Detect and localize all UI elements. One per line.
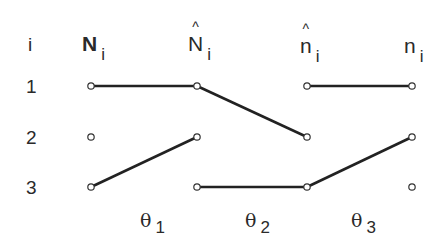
theta-symbol: θ	[245, 209, 256, 231]
col-symbol: N	[82, 32, 97, 55]
node-c2-r0	[304, 83, 310, 89]
node-c2-r2	[304, 184, 310, 190]
theta-subscript: 3	[366, 218, 375, 237]
index-header: i	[28, 35, 32, 54]
col-symbol: N	[188, 33, 203, 54]
theta-subscript: 1	[155, 218, 164, 237]
node-c1-r2	[194, 184, 200, 190]
col-subscript: i	[207, 45, 211, 64]
transition-theta-3: θ3	[351, 211, 376, 230]
transition-theta-2: θ2	[245, 211, 270, 230]
node-c3-r2	[409, 184, 415, 190]
row-label-1: 1	[26, 77, 37, 96]
node-c1-r1	[194, 134, 200, 140]
col-subscript: i	[101, 45, 105, 64]
theta-subscript: 2	[260, 218, 269, 237]
node-c3-r1	[409, 134, 415, 140]
node-c0-r2	[88, 184, 94, 190]
node-c2-r1	[304, 134, 310, 140]
theta-symbol: θ	[140, 209, 151, 231]
col-subscript: i	[420, 47, 424, 66]
edges	[91, 86, 412, 187]
node-c3-r0	[409, 83, 415, 89]
node-c0-r1	[88, 134, 94, 140]
theta-symbol: θ	[351, 209, 362, 231]
edge-N3-Nhat2	[91, 137, 197, 187]
edge-nhat3-n2	[307, 137, 412, 187]
col-header-n-hat: ni	[300, 35, 319, 56]
row-label-2: 2	[26, 128, 37, 147]
col-header-N-hat: Ni	[188, 33, 211, 54]
node-c0-r0	[88, 83, 94, 89]
row-label-3: 3	[26, 178, 37, 197]
node-c1-r0	[194, 83, 200, 89]
col-symbol: n	[300, 35, 312, 56]
nodes	[88, 83, 415, 190]
col-symbol: n	[404, 34, 416, 57]
diagram-canvas	[0, 0, 442, 243]
transition-theta-1: θ1	[140, 211, 165, 230]
col-header-n: ni	[404, 35, 423, 56]
col-subscript: i	[316, 47, 320, 66]
col-header-N: Ni	[82, 33, 105, 54]
edge-Nhat1-nhat2	[197, 86, 307, 137]
